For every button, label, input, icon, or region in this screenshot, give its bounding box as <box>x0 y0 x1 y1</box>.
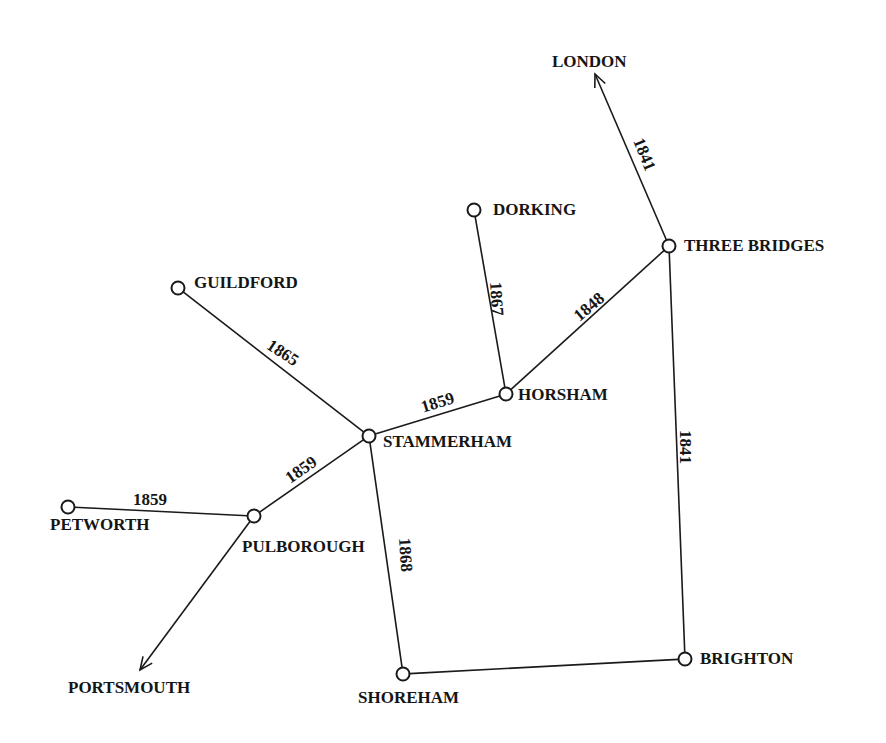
opening-year-label: 1868 <box>395 537 416 572</box>
station-node-pulborough-icon <box>248 510 261 523</box>
railway-line-stammerham-pulborough <box>259 440 363 513</box>
station-nodes <box>62 204 692 681</box>
station-label-pulborough: PULBOROUGH <box>242 537 365 556</box>
station-label-shoreham: SHOREHAM <box>358 688 459 707</box>
station-label-three-bridges: THREE BRIDGES <box>684 236 824 255</box>
opening-year-label: 1865 <box>263 335 302 369</box>
station-labels: LONDONTHREE BRIDGESDORKINGGUILDFORDHORSH… <box>50 52 824 707</box>
railway-network-diagram: 184118411848186718591865185918591868 LON… <box>0 0 886 743</box>
station-node-guildford-icon <box>172 282 185 295</box>
railway-line-guildford-stammerham <box>183 292 364 432</box>
station-label-dorking: DORKING <box>493 200 576 219</box>
station-label-guildford: GUILDFORD <box>194 273 298 292</box>
station-label-horsham: HORSHAM <box>518 385 608 404</box>
terminus-arrows <box>140 74 605 670</box>
station-node-stammerham-icon <box>363 430 376 443</box>
opening-year-labels: 184118411848186718591865185918591868 <box>133 135 695 572</box>
opening-year-label: 1867 <box>486 281 507 317</box>
railway-line-shoreham-brighton <box>409 659 678 673</box>
station-label-portsmouth: PORTSMOUTH <box>68 678 190 697</box>
opening-year-label: 1859 <box>133 490 167 509</box>
opening-year-label: 1841 <box>629 135 659 174</box>
station-node-shoreham-icon <box>397 668 410 681</box>
station-node-horsham-icon <box>500 388 513 401</box>
railway-lines <box>74 74 684 674</box>
opening-year-label: 1859 <box>282 452 321 487</box>
station-node-dorking-icon <box>468 204 481 217</box>
station-label-stammerham: STAMMERHAM <box>383 432 512 451</box>
station-label-petworth: PETWORTH <box>50 515 150 534</box>
station-label-brighton: BRIGHTON <box>700 649 794 668</box>
station-node-brighton-icon <box>679 653 692 666</box>
opening-year-label: 1859 <box>418 388 456 416</box>
railway-line-pulborough-portsmouth <box>140 521 250 670</box>
station-node-three-bridges-icon <box>663 240 676 253</box>
station-label-london: LONDON <box>552 52 627 71</box>
station-node-petworth-icon <box>62 501 75 514</box>
opening-year-label: 1841 <box>676 430 695 464</box>
